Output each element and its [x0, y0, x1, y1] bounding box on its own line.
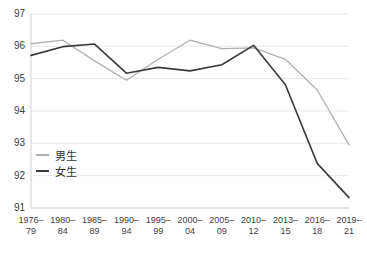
legend-item-girls: 女生: [36, 163, 77, 179]
chart-legend: 男生 女生: [36, 147, 77, 179]
series-line-boys: [31, 40, 349, 145]
y-tick-96: 96: [3, 41, 25, 51]
y-tick-93: 93: [3, 138, 25, 148]
legend-swatch-girls: [36, 170, 49, 172]
x-tick-10: 2019– 21: [329, 215, 367, 238]
legend-label-girls: 女生: [55, 163, 77, 179]
legend-swatch-boys: [36, 154, 49, 156]
gridlines: [31, 14, 349, 208]
y-tick-95: 95: [3, 74, 25, 84]
y-tick-97: 97: [3, 9, 25, 19]
y-tick-91: 91: [3, 203, 25, 213]
series-line-girls: [31, 44, 349, 198]
y-tick-92: 92: [3, 171, 25, 181]
data-series-group: [31, 40, 349, 197]
y-tick-94: 94: [3, 106, 25, 116]
legend-label-boys: 男生: [55, 147, 77, 163]
legend-item-boys: 男生: [36, 147, 77, 163]
